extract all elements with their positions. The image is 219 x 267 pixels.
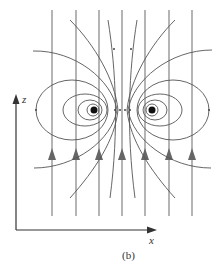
x-axis-arrow-icon — [147, 227, 157, 234]
left-current-dot — [91, 107, 98, 114]
field-diagram: z x (b) — [0, 0, 219, 267]
x-axis-label: x — [148, 234, 154, 246]
z-axis-label: z — [21, 93, 27, 105]
up-arrow-icons — [48, 148, 196, 160]
right-current-dot — [149, 107, 156, 114]
z-axis-arrow-icon — [13, 94, 20, 104]
axes — [13, 94, 158, 234]
uniform-field-lines — [52, 10, 192, 216]
figure-caption: (b) — [122, 249, 135, 262]
